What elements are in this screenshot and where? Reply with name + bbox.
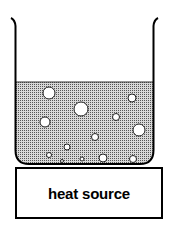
bubble (130, 156, 137, 163)
bubble (47, 153, 52, 158)
bubble (99, 154, 107, 162)
bubble (40, 117, 50, 127)
bubble (80, 157, 84, 161)
bubble (133, 124, 145, 136)
bubble (61, 160, 64, 163)
heat-source-label: heat source (16, 168, 162, 218)
bubble (43, 87, 55, 99)
bubble (128, 94, 136, 102)
bubble (113, 114, 120, 121)
bubble (92, 134, 99, 141)
bubble (74, 102, 88, 116)
bubble (64, 144, 70, 150)
